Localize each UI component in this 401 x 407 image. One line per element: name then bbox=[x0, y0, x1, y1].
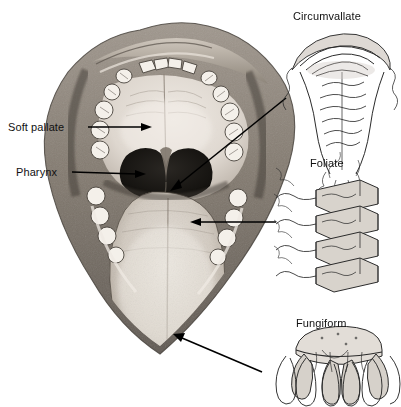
circumvallate-panel-drawing bbox=[283, 34, 398, 204]
label-pharynx: Pharynx bbox=[16, 166, 57, 178]
panel-title-fungiform: Fungiform bbox=[296, 317, 346, 329]
label-soft-pallate: Soft pallate bbox=[8, 121, 64, 133]
foliate-panel-drawing bbox=[274, 152, 378, 292]
fungiform-leader bbox=[173, 333, 262, 372]
open-mouth-illustration bbox=[0, 0, 401, 407]
fungiform-panel-drawing bbox=[276, 326, 400, 406]
illustration-canvas: Soft pallate Pharynx Circumvallate Folia… bbox=[0, 0, 401, 407]
panel-title-foliate: Foliate bbox=[310, 157, 344, 169]
panel-title-circumvallate: Circumvallate bbox=[293, 10, 361, 22]
